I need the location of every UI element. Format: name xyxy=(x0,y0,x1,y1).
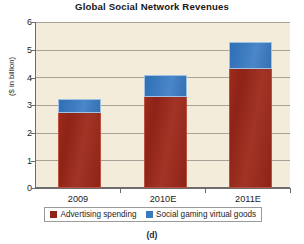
y-tick-label-2: 2 xyxy=(6,128,32,138)
bar-segment-social-gaming-2010e xyxy=(144,75,187,97)
x-tick-label-2011e: 2011E xyxy=(218,194,278,204)
legend-label-social-gaming: Social gaming virtual goods xyxy=(156,210,256,219)
bar-segment-social-gaming-2009 xyxy=(58,99,101,113)
x-tick-label-2010e: 2010E xyxy=(133,194,193,204)
chart-title: Global Social Network Revenues xyxy=(0,1,304,12)
y-tick-label-5: 5 xyxy=(6,45,32,55)
plot-inner xyxy=(36,22,290,188)
legend-entry-social-gaming: Social gaming virtual goods xyxy=(146,210,257,219)
bar-group-2009 xyxy=(58,22,101,188)
legend-swatch-icon-advertising xyxy=(50,211,57,218)
legend-swatch-icon-social-gaming xyxy=(146,211,153,218)
chart-legend: Advertising spending Social gaming virtu… xyxy=(44,207,262,222)
figure-caption: (d) xyxy=(0,230,304,240)
x-axis-line xyxy=(35,188,291,189)
y-tick-label-6: 6 xyxy=(6,17,32,27)
bar-segment-advertising-2010e xyxy=(144,97,187,189)
x-tick-label-2009: 2009 xyxy=(48,194,108,204)
legend-entry-advertising: Advertising spending xyxy=(50,210,137,219)
bar-segment-social-gaming-2011e xyxy=(229,42,272,69)
bar-segment-advertising-2011e xyxy=(229,69,272,189)
bar-group-2010e xyxy=(144,22,187,188)
y-tick-label-1: 1 xyxy=(6,156,32,166)
legend-label-advertising: Advertising spending xyxy=(61,210,137,219)
plot-area xyxy=(35,22,290,188)
y-tick-label-3: 3 xyxy=(6,100,32,110)
bar-segment-advertising-2009 xyxy=(58,113,101,188)
x-tick-mark-1 xyxy=(120,188,121,193)
x-tick-mark-2 xyxy=(205,188,206,193)
figure-panel: Global Social Network Revenues ($ in bil… xyxy=(0,0,304,244)
y-tick-label-0: 0 xyxy=(6,183,32,193)
y-tick-label-4: 4 xyxy=(6,73,32,83)
bar-group-2011e xyxy=(229,22,272,188)
x-tick-mark-3 xyxy=(290,188,291,193)
